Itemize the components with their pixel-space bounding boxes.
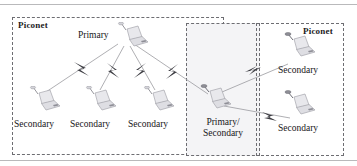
node-label-secondary-2: Secondary: [70, 119, 110, 130]
laptop-icon-secondary-5[interactable]: [284, 90, 318, 120]
diagram-canvas: Piconet Piconet Primary Secondary Second…: [0, 0, 357, 166]
node-label-primary-secondary-line2: Secondary: [192, 128, 254, 139]
laptop-icon-primary[interactable]: [117, 22, 151, 52]
laptop-icon-secondary-1[interactable]: [29, 86, 63, 116]
piconet-right-title: Piconet: [303, 26, 333, 36]
piconet-left-title: Piconet: [18, 20, 48, 30]
laptop-icon-secondary-3[interactable]: [143, 86, 177, 116]
node-label-secondary-4: Secondary: [278, 65, 318, 76]
node-label-primary-secondary: Primary/ Secondary: [192, 117, 254, 139]
frame-bottom-rule: [0, 160, 357, 161]
node-label-secondary-5: Secondary: [278, 123, 318, 134]
node-label-secondary-1: Secondary: [14, 119, 54, 130]
node-label-primary-secondary-line1: Primary/: [192, 117, 254, 128]
laptop-icon-secondary-2[interactable]: [85, 86, 119, 116]
node-label-secondary-3: Secondary: [128, 119, 168, 130]
node-label-primary: Primary: [78, 30, 109, 41]
frame-top-rule: [0, 4, 357, 5]
laptop-icon-primary-secondary[interactable]: [200, 84, 234, 114]
laptop-icon-secondary-4[interactable]: [284, 32, 318, 62]
